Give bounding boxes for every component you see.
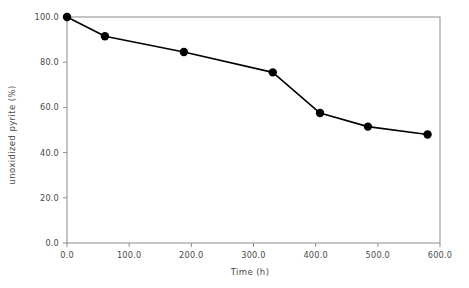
data-line-series-1	[67, 17, 428, 135]
data-point-marker	[316, 109, 324, 117]
line-chart-plot: 0.020.040.060.080.0100.0 0.0100.0200.030…	[0, 0, 469, 288]
x-tick-label: 100.0	[117, 250, 141, 260]
data-point-marker	[423, 130, 431, 138]
y-tick-label: 100.0	[35, 12, 59, 22]
x-tick-label: 400.0	[303, 250, 327, 260]
chart-figure: 0.020.040.060.080.0100.0 0.0100.0200.030…	[0, 0, 469, 288]
x-tick-label: 300.0	[241, 250, 265, 260]
data-markers-series-1	[63, 13, 432, 139]
y-tick-label: 40.0	[40, 148, 59, 158]
data-point-marker	[269, 68, 277, 76]
x-tick-label: 200.0	[179, 250, 203, 260]
y-tick-label: 20.0	[40, 193, 59, 203]
x-tick-label: 600.0	[428, 250, 452, 260]
x-tick-label: 500.0	[366, 250, 390, 260]
x-axis-ticks: 0.0100.0200.0300.0400.0500.0600.0	[60, 243, 452, 260]
data-point-marker	[364, 122, 372, 130]
data-point-marker	[180, 48, 188, 56]
plot-frame	[67, 17, 440, 243]
y-axis-title: unoxidized pyrite (%)	[7, 75, 17, 195]
y-tick-label: 60.0	[40, 102, 59, 112]
y-tick-label: 0.0	[45, 238, 59, 248]
x-tick-label: 0.0	[60, 250, 74, 260]
y-tick-label: 80.0	[40, 57, 59, 67]
y-axis-ticks: 0.020.040.060.080.0100.0	[35, 12, 67, 248]
data-point-marker	[101, 32, 109, 40]
data-point-marker	[63, 13, 71, 21]
x-axis-title: Time (h)	[190, 267, 310, 277]
